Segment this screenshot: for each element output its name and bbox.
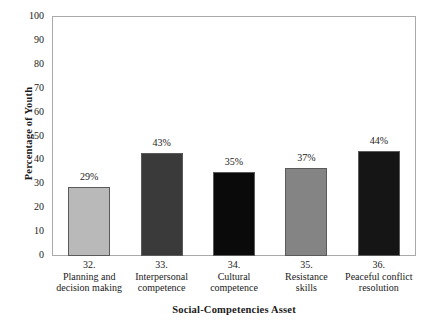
bars-container: 29%43%35%37%44% xyxy=(53,17,415,256)
bar[interactable] xyxy=(68,187,110,256)
bar-value-label: 29% xyxy=(80,172,98,182)
bar-slot: 29% xyxy=(53,17,125,256)
bar-slot: 43% xyxy=(125,17,197,256)
x-category-label-line: Interpersonal xyxy=(126,271,196,283)
x-category-label-line: skills xyxy=(271,282,341,294)
x-category-label-line: 32. xyxy=(54,259,124,271)
y-tick-label: 0 xyxy=(39,250,44,260)
x-category-label-line: Peaceful conflict xyxy=(344,271,414,283)
x-axis-title: Social-Competencies Asset xyxy=(52,304,416,315)
x-category-label-line: competence xyxy=(199,282,269,294)
bar-slot: 37% xyxy=(270,17,342,256)
x-category-label-line: Cultural xyxy=(199,271,269,283)
bar-value-label: 44% xyxy=(370,136,388,146)
x-category-label-line: decision making xyxy=(54,282,124,294)
x-category-label: 32.Planning anddecision making xyxy=(53,259,125,294)
y-tick-label: 50 xyxy=(34,131,44,141)
y-tick-label: 60 xyxy=(34,107,44,117)
x-category-label: 33.Interpersonalcompetence xyxy=(125,259,197,294)
y-tick-label: 10 xyxy=(34,226,44,236)
y-tick-label: 40 xyxy=(34,154,44,164)
x-category-label-line: 36. xyxy=(344,259,414,271)
x-category-label: 34.Culturalcompetence xyxy=(198,259,270,294)
x-category-label-line: 33. xyxy=(126,259,196,271)
x-category-label-line: Planning and xyxy=(54,271,124,283)
bar-chart: Percentage of Youth 10090807060504030201… xyxy=(0,0,438,324)
y-tick-label: 80 xyxy=(34,59,44,69)
bar[interactable] xyxy=(141,153,183,256)
bar-slot: 44% xyxy=(343,17,415,256)
x-category-label-line: resolution xyxy=(344,282,414,294)
x-category-label-line: Resistance xyxy=(271,271,341,283)
bar[interactable] xyxy=(213,172,255,256)
bar-value-label: 43% xyxy=(152,138,170,148)
x-category-label: 36.Peaceful conflictresolution xyxy=(343,259,415,294)
x-category-label: 35.Resistanceskills xyxy=(270,259,342,294)
y-tick-label: 100 xyxy=(29,11,44,21)
x-category-label-line: 34. xyxy=(199,259,269,271)
x-category-label-line: 35. xyxy=(271,259,341,271)
bar[interactable] xyxy=(285,168,327,256)
y-tick-label: 90 xyxy=(34,35,44,45)
x-axis-category-labels: 32.Planning anddecision making33.Interpe… xyxy=(53,259,415,294)
x-category-label-line: competence xyxy=(126,282,196,294)
bar-value-label: 35% xyxy=(225,157,243,167)
y-tick-label: 70 xyxy=(34,83,44,93)
y-tick-label: 20 xyxy=(34,202,44,212)
bar-value-label: 37% xyxy=(297,153,315,163)
y-tick-label: 30 xyxy=(34,178,44,188)
bar-slot: 35% xyxy=(198,17,270,256)
y-axis-tick-labels: 1009080706050403020100 xyxy=(0,16,48,256)
bar[interactable] xyxy=(358,151,400,256)
